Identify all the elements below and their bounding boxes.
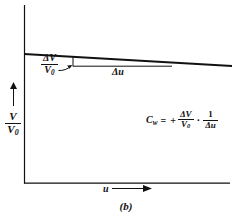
- equation: Cw = + ΔV V0 · 1 Δu: [146, 110, 218, 131]
- equation-delta-u-denominator: Δu: [203, 121, 218, 130]
- figure-caption: (b): [0, 200, 252, 212]
- equation-one-over-delta-u-fraction: 1 Δu: [203, 110, 218, 130]
- multiplication-dot: ·: [197, 115, 201, 126]
- delta-u-label: Δu: [112, 66, 124, 77]
- equation-delta-v-over-v0-fraction: ΔV V0: [178, 110, 194, 131]
- v-over-v0-fraction: V V0: [5, 111, 20, 137]
- v0-denominator: V0: [41, 65, 58, 77]
- delta-v-over-v0-fraction: ΔV V0: [41, 53, 58, 77]
- x-axis-label-text: u: [103, 183, 109, 194]
- x-axis-label: u: [103, 183, 152, 194]
- equation-lhs: Cw: [146, 114, 157, 127]
- right-arrow-icon: [112, 184, 152, 193]
- y-axis-label-text: V V0: [5, 116, 20, 128]
- y-axis-label: V V0: [3, 82, 23, 137]
- delta-v-over-v0-label: ΔV V0: [41, 53, 58, 77]
- equation-v0-denominator: V0: [178, 120, 194, 130]
- up-arrow-icon: [9, 82, 18, 106]
- plus-sign: +: [170, 115, 176, 126]
- equals-sign: =: [160, 115, 166, 126]
- v0-denominator: V0: [5, 124, 20, 137]
- figure-container: ΔV V0 Δu V V0 u Cw = + ΔV V0: [0, 0, 252, 219]
